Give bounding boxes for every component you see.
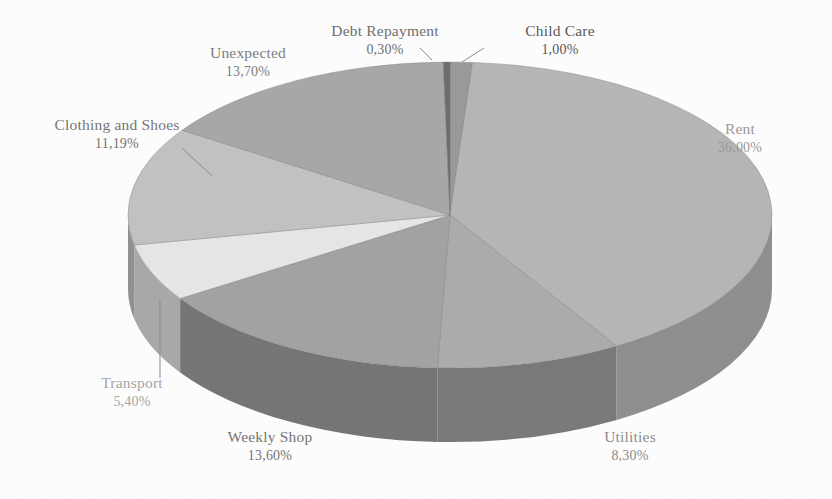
- slice-label-debt-repayment-pct: 0,30%: [300, 41, 470, 58]
- pie-top-surface: [128, 62, 772, 368]
- slice-label-child-care-pct: 1,00%: [490, 41, 630, 58]
- slice-label-child-care: Child Care 1,00%: [490, 22, 630, 58]
- slice-label-unexpected-pct: 13,70%: [178, 63, 318, 80]
- pie-chart-svg: [0, 0, 832, 499]
- slice-label-clothing-and-shoes: Clothing and Shoes 11,19%: [22, 116, 212, 152]
- slice-label-utilities: Utilities 8,30%: [560, 428, 700, 464]
- slice-label-utilities-name: Utilities: [560, 428, 700, 447]
- slice-label-unexpected-name: Unexpected: [178, 44, 318, 63]
- slice-label-transport: Transport 5,40%: [62, 374, 202, 410]
- slice-label-clothing-and-shoes-pct: 11,19%: [22, 135, 212, 152]
- slice-label-clothing-and-shoes-name: Clothing and Shoes: [22, 116, 212, 135]
- slice-label-weekly-shop-pct: 13,60%: [190, 447, 350, 464]
- slice-label-rent: Rent 36,00%: [680, 120, 800, 156]
- slice-label-weekly-shop: Weekly Shop 13,60%: [190, 428, 350, 464]
- slice-label-weekly-shop-name: Weekly Shop: [190, 428, 350, 447]
- slice-label-debt-repayment-name: Debt Repayment: [300, 22, 470, 41]
- pie-chart: Debt Repayment 0,30% Child Care 1,00% Un…: [0, 0, 832, 499]
- slice-label-child-care-name: Child Care: [490, 22, 630, 41]
- slice-label-transport-pct: 5,40%: [62, 393, 202, 410]
- slice-label-utilities-pct: 8,30%: [560, 447, 700, 464]
- slice-label-transport-name: Transport: [62, 374, 202, 393]
- slice-label-debt-repayment: Debt Repayment 0,30%: [300, 22, 470, 58]
- slice-label-rent-name: Rent: [680, 120, 800, 139]
- chart-page: Debt Repayment 0,30% Child Care 1,00% Un…: [0, 0, 832, 499]
- slice-label-rent-pct: 36,00%: [680, 139, 800, 156]
- slice-label-unexpected: Unexpected 13,70%: [178, 44, 318, 80]
